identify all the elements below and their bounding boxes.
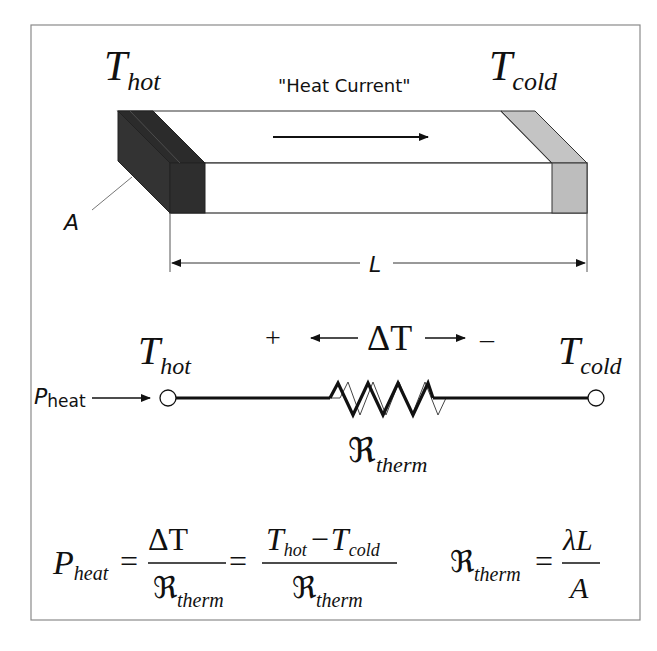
heat-current-label: "Heat Current" bbox=[278, 75, 411, 96]
eq-frac3-denominator: A bbox=[568, 571, 589, 604]
equations-section: Pheat = ΔT ℜtherm = Thot−Tcold ℜtherm ℜt… bbox=[52, 521, 600, 611]
eq-frac1-numerator: ΔT bbox=[148, 521, 189, 557]
hot-terminal bbox=[160, 390, 176, 406]
eq-frac2-denominator: ℜtherm bbox=[292, 571, 363, 611]
resistor-label: ℜtherm bbox=[348, 432, 427, 477]
area-label: A bbox=[62, 210, 79, 235]
eq-frac2-numerator: Thot−Tcold bbox=[266, 521, 381, 560]
bar-t-hot-label: Thot bbox=[104, 43, 161, 96]
circuit-t-cold-label: Tcold bbox=[558, 328, 623, 379]
eq-equals-1: = bbox=[120, 543, 138, 579]
area-leader-line bbox=[92, 177, 132, 210]
circuit-section: Thot Tcold + ΔT – Pheat ℜtherm bbox=[34, 318, 623, 477]
bar-section: Thot Tcold "Heat Current" A L bbox=[62, 43, 587, 277]
eq-p-heat: Pheat bbox=[52, 544, 109, 584]
eq-frac1-denominator: ℜtherm bbox=[153, 571, 224, 611]
thermal-resistance-diagram: Thot Tcold "Heat Current" A L Thot Tcold… bbox=[0, 0, 657, 651]
bar-t-cold-label: Tcold bbox=[489, 43, 558, 96]
cold-terminal bbox=[588, 390, 604, 406]
eq-r-therm: ℜtherm bbox=[450, 545, 521, 585]
eq-equals-3: = bbox=[535, 543, 553, 579]
eq-equals-2: = bbox=[229, 543, 247, 579]
circuit-t-hot-label: Thot bbox=[138, 328, 192, 379]
length-label: L bbox=[369, 252, 381, 277]
plus-sign: + bbox=[265, 322, 281, 353]
circuit-p-heat-label: Pheat bbox=[34, 384, 86, 411]
hot-end-front bbox=[170, 163, 205, 213]
eq-frac3-numerator: λL bbox=[562, 523, 593, 556]
delta-t-label: ΔT bbox=[367, 318, 412, 358]
minus-sign: – bbox=[479, 323, 495, 354]
cold-end-front bbox=[552, 163, 587, 213]
bar-front-face bbox=[170, 163, 587, 213]
